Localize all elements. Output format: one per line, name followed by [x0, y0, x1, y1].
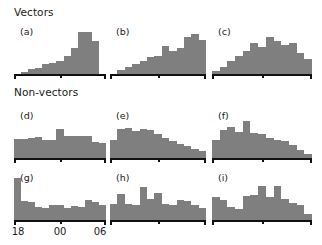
plot-area — [212, 116, 312, 158]
bar-series — [110, 176, 206, 220]
bar — [14, 178, 21, 220]
bar — [250, 43, 258, 74]
bar — [110, 140, 117, 158]
bar — [266, 197, 274, 220]
bar — [220, 67, 228, 74]
bar — [199, 40, 206, 74]
bar — [220, 200, 228, 220]
bar-series — [212, 116, 312, 158]
bar — [184, 146, 191, 158]
bar — [92, 202, 99, 220]
bar — [49, 140, 56, 158]
bar — [28, 202, 35, 220]
histogram-panel-f: (f) — [212, 110, 312, 178]
plot-area — [14, 176, 106, 220]
x-axis-tick — [104, 74, 106, 79]
bar — [243, 121, 251, 158]
bar — [169, 51, 176, 74]
bar — [117, 129, 124, 158]
x-axis-tick — [212, 74, 214, 79]
histogram-panel-e: (e) — [110, 110, 206, 178]
x-axis-tick — [310, 74, 312, 79]
bar — [42, 140, 49, 158]
bar — [71, 206, 78, 220]
bar — [297, 205, 305, 220]
bar — [274, 41, 282, 74]
bar — [42, 208, 49, 220]
bar — [132, 64, 139, 74]
plot-area — [14, 30, 106, 74]
x-axis-tick — [60, 74, 62, 78]
bar-series — [14, 176, 106, 220]
bar — [177, 144, 184, 158]
bar-series — [14, 30, 106, 74]
bar — [250, 195, 258, 220]
bar — [132, 131, 139, 158]
bar — [99, 205, 106, 220]
bar — [227, 61, 235, 74]
bar — [110, 204, 117, 220]
bar — [227, 207, 235, 220]
x-axis-tick — [310, 220, 312, 225]
x-axis-tick — [110, 74, 112, 79]
bar — [281, 45, 289, 74]
histogram-panel-g: (g)180006 — [14, 172, 106, 240]
bar — [56, 205, 63, 220]
bar — [140, 61, 147, 74]
bar — [125, 67, 132, 74]
x-axis-tick — [262, 158, 264, 162]
plot-area — [110, 116, 206, 158]
bar — [289, 145, 297, 158]
bar — [71, 136, 78, 158]
bar-series — [14, 116, 106, 158]
bar — [235, 209, 243, 220]
x-axis-tick — [104, 220, 106, 225]
bar — [281, 141, 289, 158]
bar — [162, 46, 169, 74]
bar — [266, 37, 274, 74]
bar — [35, 137, 42, 158]
x-axis-tick — [110, 158, 112, 163]
x-axis-tick — [310, 158, 312, 163]
bar — [64, 208, 71, 220]
bar — [177, 48, 184, 74]
bar — [250, 133, 258, 158]
x-axis-tick-label: 18 — [12, 226, 25, 237]
bar — [154, 56, 161, 74]
bar — [227, 127, 235, 158]
x-axis-tick-label: 00 — [54, 226, 67, 237]
bar — [140, 129, 147, 158]
plot-area — [110, 30, 206, 74]
bar — [78, 207, 85, 220]
x-axis-tick — [14, 74, 16, 79]
histogram-panel-h: (h) — [110, 172, 206, 240]
bar — [35, 207, 42, 220]
bar — [49, 205, 56, 220]
bar — [304, 59, 312, 74]
x-axis-tick — [158, 220, 160, 224]
bar — [281, 199, 289, 220]
bar-series — [212, 176, 312, 220]
bar — [49, 63, 56, 74]
bar-series — [110, 116, 206, 158]
bar — [14, 139, 21, 158]
bar — [297, 53, 305, 74]
bar — [266, 138, 274, 158]
histogram-panel-c: (c) — [212, 26, 312, 94]
bar — [199, 151, 206, 158]
x-axis-tick — [204, 158, 206, 163]
histogram-panel-i: (i) — [212, 172, 312, 240]
bar — [169, 141, 176, 158]
histogram-panel-b: (b) — [110, 26, 206, 94]
x-axis-tick-label: 06 — [94, 226, 107, 237]
bar — [154, 193, 161, 220]
bar — [147, 130, 154, 158]
bar — [21, 201, 28, 220]
figure-histogram-grid: Vectors Non-vectors (a)(b)(c)(d)(e)(f)(g… — [0, 0, 322, 245]
x-axis-tick — [212, 158, 214, 163]
group-title-vectors: Vectors — [14, 6, 54, 18]
plot-area — [14, 116, 106, 158]
bar — [132, 205, 139, 220]
bar — [191, 149, 198, 158]
bar — [28, 138, 35, 158]
